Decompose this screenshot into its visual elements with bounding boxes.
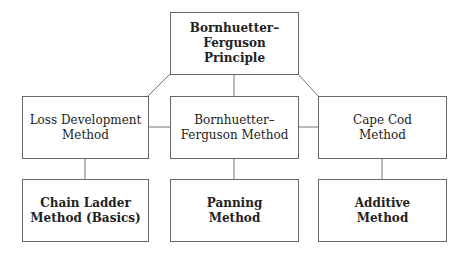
node-label: Loss Development <box>30 113 142 128</box>
node-label: Method <box>355 211 410 226</box>
node-cape-cod-method: Cape CodMethod <box>318 96 447 159</box>
node-label: Additive <box>355 196 410 211</box>
node-label: Ferguson Method <box>181 128 289 143</box>
node-label: Ferguson Principle <box>171 36 298 66</box>
root-node-bornhuetter-ferguson-principle: Bornhuetter–Ferguson Principle <box>170 12 299 75</box>
node-bornhuetter-ferguson-method: Bornhuetter–Ferguson Method <box>170 96 299 159</box>
node-label: Chain Ladder <box>30 196 140 211</box>
node-loss-development-method: Loss DevelopmentMethod <box>22 96 149 159</box>
diagram-canvas: Bornhuetter–Ferguson Principle Loss Deve… <box>0 0 468 254</box>
node-chain-ladder-method: Chain LadderMethod (Basics) <box>22 179 149 242</box>
node-label: Method <box>30 128 142 143</box>
node-label: Method <box>207 211 263 226</box>
node-label: Panning <box>207 196 263 211</box>
node-panning-method: PanningMethod <box>170 179 299 242</box>
node-label: Bornhuetter– <box>181 113 289 128</box>
node-label: Method <box>353 128 412 143</box>
node-label: Cape Cod <box>353 113 412 128</box>
node-label: Method (Basics) <box>30 211 140 226</box>
node-additive-method: AdditiveMethod <box>318 179 447 242</box>
node-label: Bornhuetter– <box>171 21 298 36</box>
